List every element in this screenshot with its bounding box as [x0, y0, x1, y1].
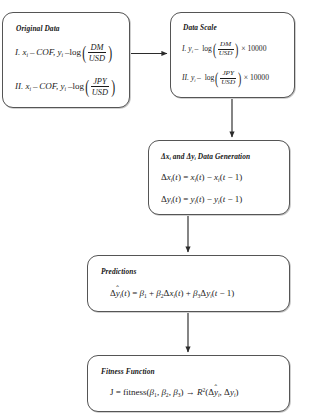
- scale-multiplier: 10000: [250, 73, 269, 82]
- fraction-jpy-usd-scaled: (JPYUSD): [214, 70, 241, 87]
- data-scale-equation-1: I. yi – log(DMUSD) × 10000: [182, 41, 266, 58]
- original-data-equation-1: I. xi – COF, yi –log(DMUSD): [15, 43, 113, 63]
- delta-x-equation: Δxi(t) = xi(t) − xi(t − 1): [161, 173, 242, 183]
- predictions-equation: Δˆyi(t) = β1 + β2Δxi(t) + β3Δyi(t − 1): [110, 289, 234, 299]
- fraction-jpy-usd: (JPYUSD): [84, 77, 116, 97]
- data-scale-equation-2: II. yi – log(JPYUSD) × 10000: [182, 70, 269, 87]
- fraction-dm-usd: (DMUSD): [81, 43, 113, 63]
- node-original-data-title: Original Data: [16, 25, 60, 32]
- node-data-scale-title: Data Scale: [183, 24, 217, 31]
- node-fitness-function-title: Fitness Function: [101, 368, 155, 375]
- fitness-function-equation: J = fitness(β1, β2, β3) → R2(Δˆyi, Δyi): [110, 388, 238, 398]
- delta-y-equation: Δyi(t) = yi(t) − yi(t − 1): [161, 195, 242, 205]
- node-fitness-function: Fitness Function J = fitness(β1, β2, β3)…: [87, 355, 290, 412]
- node-predictions: Predictions Δˆyi(t) = β1 + β2Δxi(t) + β3…: [87, 255, 290, 312]
- node-data-scale: Data Scale I. yi – log(DMUSD) × 10000 II…: [170, 12, 295, 98]
- y-hat: ˆy: [214, 388, 218, 397]
- node-predictions-title: Predictions: [101, 268, 136, 275]
- fraction-dm-usd-scaled: (DMUSD): [212, 41, 239, 58]
- node-delta-generation: Δxi and Δyi Data Generation Δxi(t) = xi(…: [148, 140, 290, 215]
- scale-multiplier: 10000: [247, 44, 266, 53]
- original-data-equation-2: II. xi – COF, yi –log(JPYUSD): [15, 77, 116, 97]
- node-original-data: Original Data I. xi – COF, yi –log(DMUSD…: [2, 12, 130, 108]
- y-hat: ˆy: [116, 289, 120, 298]
- node-delta-generation-title: Δxi and Δyi Data Generation: [161, 153, 250, 162]
- item-label: II.: [15, 81, 23, 91]
